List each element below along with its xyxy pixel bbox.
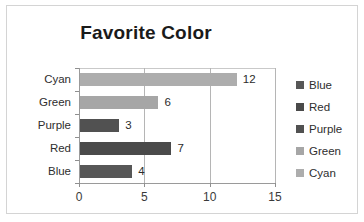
- chart-title: Favorite Color: [7, 22, 285, 44]
- bar-value-label: 4: [138, 165, 144, 177]
- legend-item-blue[interactable]: Blue: [296, 74, 362, 96]
- bar-value-label: 7: [177, 142, 183, 154]
- legend-item-cyan[interactable]: Cyan: [296, 162, 362, 184]
- chart-legend: BlueRedPurpleGreenCyan: [296, 74, 362, 184]
- bar-green[interactable]: [80, 96, 158, 109]
- legend-swatch-icon: [296, 103, 304, 111]
- x-tick-label: 15: [260, 190, 290, 204]
- legend-item-green[interactable]: Green: [296, 140, 362, 162]
- gridline-15: [275, 68, 276, 183]
- legend-label: Blue: [309, 79, 332, 91]
- plot-area: 126374 051015 CyanGreenPurpleRedBlue: [79, 68, 275, 183]
- x-tick-10: [210, 183, 211, 187]
- bar-value-label: 12: [243, 73, 256, 85]
- category-label-red: Red: [11, 142, 71, 154]
- chart-screenshot: Favorite Color 126374 051015 CyanGreenPu…: [0, 0, 364, 222]
- y-tick: [75, 183, 79, 184]
- x-tick-5: [144, 183, 145, 187]
- legend-swatch-icon: [296, 169, 304, 177]
- x-tick-label: 5: [129, 190, 159, 204]
- x-tick-label: 10: [195, 190, 225, 204]
- bar-value-label: 3: [125, 119, 131, 131]
- bar-cyan[interactable]: [80, 73, 237, 86]
- category-label-blue: Blue: [11, 165, 71, 177]
- category-label-green: Green: [11, 96, 71, 108]
- legend-label: Red: [309, 101, 330, 113]
- legend-label: Cyan: [309, 167, 336, 179]
- bar-purple[interactable]: [80, 119, 119, 132]
- legend-item-purple[interactable]: Purple: [296, 118, 362, 140]
- bar-blue[interactable]: [80, 165, 132, 178]
- y-tick: [75, 160, 79, 161]
- y-tick: [75, 137, 79, 138]
- legend-swatch-icon: [296, 147, 304, 155]
- x-axis-line: [79, 183, 275, 184]
- y-tick: [75, 68, 79, 69]
- x-tick-label: 0: [64, 190, 94, 204]
- category-label-cyan: Cyan: [11, 73, 71, 85]
- legend-swatch-icon: [296, 125, 304, 133]
- legend-swatch-icon: [296, 81, 304, 89]
- legend-label: Green: [309, 145, 341, 157]
- legend-label: Purple: [309, 123, 342, 135]
- plot-top-border: [79, 68, 275, 69]
- y-tick: [75, 91, 79, 92]
- x-tick-15: [275, 183, 276, 187]
- bar-value-label: 6: [164, 96, 170, 108]
- chart-frame: Favorite Color 126374 051015 CyanGreenPu…: [6, 5, 358, 214]
- category-label-purple: Purple: [11, 119, 71, 131]
- legend-item-red[interactable]: Red: [296, 96, 362, 118]
- bar-red[interactable]: [80, 142, 171, 155]
- y-tick: [75, 114, 79, 115]
- x-tick-0: [79, 183, 80, 187]
